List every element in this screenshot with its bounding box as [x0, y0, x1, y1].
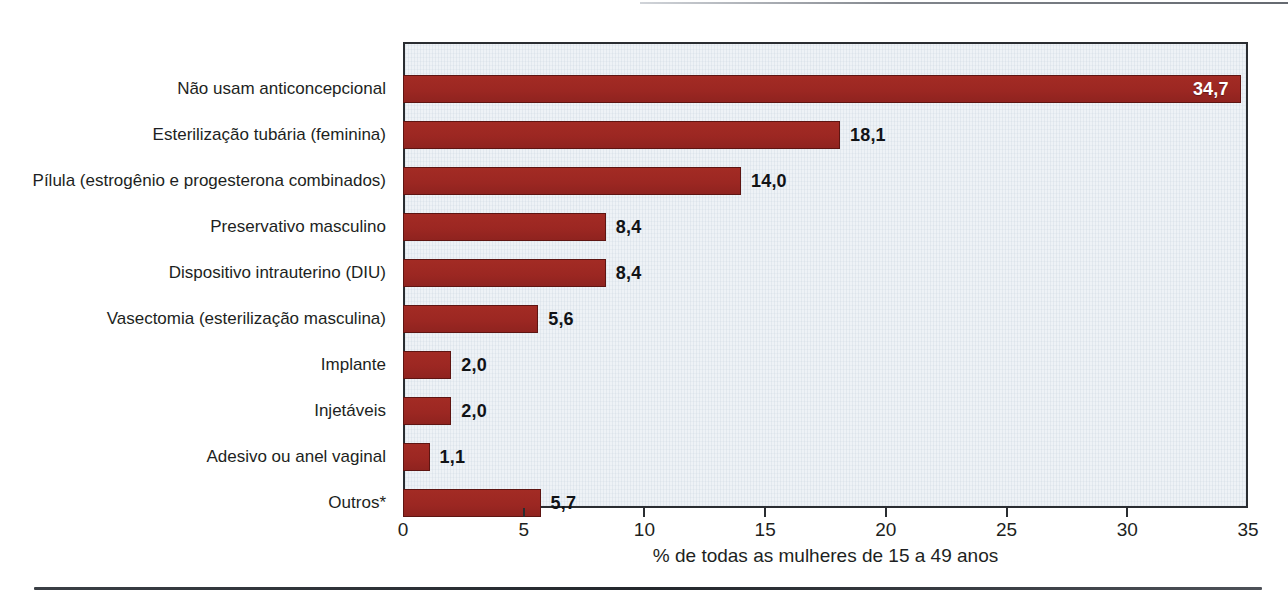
bar — [403, 443, 430, 471]
x-axis-tick-label: 20 — [875, 519, 896, 541]
category-label-text: Não usam anticoncepcional — [177, 79, 395, 99]
bar-row: 1,1 — [403, 443, 1248, 471]
bar — [403, 213, 606, 241]
bar-value-label: 1,1 — [440, 447, 466, 468]
bar-row: 5,6 — [403, 305, 1248, 333]
bar — [403, 121, 840, 149]
x-axis-tick — [885, 508, 887, 517]
x-axis-tick-label: 30 — [1117, 519, 1138, 541]
category-label: Outros* — [0, 489, 395, 517]
bar-series: 34,718,114,08,48,45,62,02,01,15,7 — [403, 42, 1248, 508]
x-axis-tick — [1006, 508, 1008, 517]
bar-row: 14,0 — [403, 167, 1248, 195]
x-axis: 05101520253035 — [403, 508, 1248, 548]
x-axis-tick-label: 10 — [634, 519, 655, 541]
category-label-text: Pílula (estrogênio e progesterona combin… — [33, 171, 395, 191]
bar — [403, 259, 606, 287]
category-label-text: Esterilização tubária (feminina) — [153, 125, 395, 145]
category-label-text: Preservativo masculino — [210, 217, 395, 237]
bar-row: 2,0 — [403, 397, 1248, 425]
bar — [403, 167, 741, 195]
category-label-text: Implante — [321, 355, 395, 375]
bar — [403, 397, 451, 425]
category-label: Injetáveis — [0, 397, 395, 425]
bar-row: 8,4 — [403, 213, 1248, 241]
bar-value-label: 18,1 — [850, 125, 886, 146]
category-label: Vasectomia (esterilização masculina) — [0, 305, 395, 333]
x-axis-tick-label: 0 — [398, 519, 409, 541]
category-label: Dispositivo intrauterino (DIU) — [0, 259, 395, 287]
x-axis-title: % de todas as mulheres de 15 a 49 anos — [403, 545, 1248, 567]
bar-row: 8,4 — [403, 259, 1248, 287]
bar-value-label: 8,4 — [616, 217, 642, 238]
category-label: Implante — [0, 351, 395, 379]
x-axis-tick-label: 15 — [755, 519, 776, 541]
category-label-text: Dispositivo intrauterino (DIU) — [169, 263, 395, 283]
x-axis-tick — [764, 508, 766, 517]
x-axis-tick — [643, 508, 645, 517]
x-axis-tick — [1126, 508, 1128, 517]
bar — [403, 75, 1241, 103]
bar-value-label: 2,0 — [461, 355, 487, 376]
x-axis-tick-label: 25 — [996, 519, 1017, 541]
category-label-text: Outros* — [328, 493, 395, 513]
bar-chart-figure: Não usam anticoncepcionalEsterilização t… — [0, 0, 1288, 608]
bar-value-label: 5,6 — [548, 309, 574, 330]
category-label: Preservativo masculino — [0, 213, 395, 241]
bar-row: 2,0 — [403, 351, 1248, 379]
category-label: Pílula (estrogênio e progesterona combin… — [0, 167, 395, 195]
category-label-text: Adesivo ou anel vaginal — [206, 447, 395, 467]
category-label-text: Injetáveis — [314, 401, 395, 421]
x-axis-tick-label: 5 — [518, 519, 529, 541]
x-axis-tick — [523, 508, 525, 517]
category-label: Adesivo ou anel vaginal — [0, 443, 395, 471]
category-label: Esterilização tubária (feminina) — [0, 121, 395, 149]
category-axis-labels: Não usam anticoncepcionalEsterilização t… — [0, 42, 395, 508]
bar-row: 34,7 — [403, 75, 1248, 103]
x-axis-tick-label: 35 — [1237, 519, 1258, 541]
bottom-divider-rule — [34, 587, 1262, 590]
bar-row: 18,1 — [403, 121, 1248, 149]
bar-value-label: 14,0 — [751, 171, 787, 192]
category-label: Não usam anticoncepcional — [0, 75, 395, 103]
category-label-text: Vasectomia (esterilização masculina) — [107, 309, 395, 329]
bar — [403, 351, 451, 379]
bar-value-label: 2,0 — [461, 401, 487, 422]
bar — [403, 305, 538, 333]
bar-value-label: 8,4 — [616, 263, 642, 284]
bar-value-label: 34,7 — [1193, 79, 1229, 100]
